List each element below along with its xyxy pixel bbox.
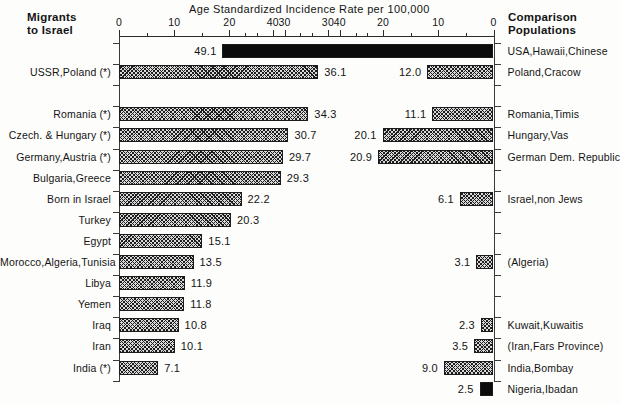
bar-right-9[interactable] — [444, 361, 494, 375]
left-panel-header: Migrants to Israel — [27, 11, 77, 36]
right-zero-axis-row-tick-12 — [494, 296, 501, 297]
right-axis-tick-label-20: 20 — [368, 16, 398, 28]
bar-left-10[interactable] — [119, 297, 184, 311]
bar-right-8[interactable] — [474, 339, 493, 353]
bar-left-2[interactable] — [119, 128, 288, 142]
bar-left-13[interactable] — [119, 361, 158, 375]
left-panel-header-line1: Migrants — [27, 11, 77, 24]
right-axis-tick-35 — [300, 33, 301, 36]
right-axis-tick-label-10: 10 — [423, 16, 453, 28]
right-axis-tick-25 — [356, 33, 357, 36]
row-label-left-7: Egypt — [0, 236, 111, 247]
row-label-right-1: Poland,Cracow — [508, 67, 581, 78]
row-label-left-9: Libya — [0, 278, 111, 289]
left-axis-tick-5 — [147, 33, 148, 36]
bar-value-left-4: 29.3 — [287, 173, 309, 184]
right-axis-tick-45 — [245, 33, 246, 36]
bar-left-9[interactable] — [119, 276, 185, 290]
bar-value-right-9: 9.0 — [398, 363, 438, 374]
bar-value-left-3: 29.7 — [289, 152, 311, 163]
bar-left-0[interactable] — [119, 65, 318, 79]
bar-value-left-11: 10.8 — [185, 320, 207, 331]
bar-value-left-10: 11.8 — [190, 299, 211, 310]
left-axis-tick-label-20: 20 — [214, 16, 244, 28]
right-axis-tick-label-0: 0 — [479, 16, 509, 28]
bar-left-6[interactable] — [119, 213, 231, 227]
bar-right-4[interactable] — [378, 150, 493, 164]
bar-right-0[interactable] — [222, 44, 493, 58]
bar-value-right-10: 2.5 — [434, 384, 474, 395]
right-zero-axis-row-tick-15 — [494, 360, 501, 361]
right-axis-tick-15 — [411, 33, 412, 36]
right-zero-axis-row-tick-5 — [494, 149, 501, 150]
bar-value-left-6: 20.3 — [237, 215, 259, 226]
row-label-left-5: Born in Israel — [0, 194, 111, 205]
bar-left-4[interactable] — [119, 171, 281, 185]
bar-value-left-13: 7.1 — [164, 363, 180, 374]
bar-value-left-7: 15.1 — [208, 236, 230, 247]
right-zero-axis-row-tick-13 — [494, 317, 501, 318]
right-axis-tick-20 — [383, 30, 384, 36]
bar-left-12[interactable] — [119, 339, 175, 353]
row-label-right-7: Kuwait,Kuwaitis — [508, 320, 584, 331]
bar-value-right-0: 49.1 — [176, 46, 216, 57]
bar-right-7[interactable] — [481, 318, 494, 332]
row-label-left-3: Germany,Austria (*) — [0, 152, 111, 163]
bar-left-5[interactable] — [119, 192, 242, 206]
row-label-left-4: Bulgaria,Greece — [0, 173, 111, 184]
left-zero-axis-row-tick-0 — [113, 43, 120, 44]
bar-left-7[interactable] — [119, 234, 202, 248]
bar-right-10[interactable] — [480, 382, 494, 396]
bar-value-right-6: 3.1 — [430, 257, 470, 268]
right-axis-tick-40 — [273, 30, 274, 36]
left-zero-axis-row-tick-2 — [113, 85, 120, 86]
right-zero-axis-row-tick-14 — [494, 338, 501, 339]
bar-value-right-8: 3.5 — [428, 341, 468, 352]
left-axis-tick-20 — [229, 30, 230, 36]
bar-right-5[interactable] — [460, 192, 494, 206]
bar-left-1[interactable] — [119, 107, 308, 121]
bar-value-right-1: 12.0 — [381, 67, 421, 78]
left-zero-axis-row-tick-16 — [113, 381, 120, 382]
left-axis-tick-label-0: 0 — [104, 16, 134, 28]
right-zero-axis-row-tick-10 — [494, 254, 501, 255]
bar-value-left-9: 11.9 — [191, 278, 212, 289]
row-label-right-9: India,Bombay — [508, 363, 574, 374]
left-axis-tick-35 — [312, 33, 313, 36]
right-panel-header-line1: Comparison — [508, 11, 577, 24]
bar-left-8[interactable] — [119, 255, 194, 269]
bar-right-2[interactable] — [432, 107, 493, 121]
bar-left-11[interactable] — [119, 318, 179, 332]
right-axis-tick-10 — [438, 30, 439, 36]
right-axis-line — [230, 36, 494, 37]
row-label-right-4: German Dem. Republic — [508, 152, 620, 163]
left-axis-tick-30 — [285, 30, 286, 36]
bar-value-left-1: 34.3 — [314, 109, 336, 120]
right-axis-tick-label-30: 30 — [313, 16, 343, 28]
bar-value-right-2: 11.1 — [386, 109, 426, 120]
left-axis-tick-25 — [257, 33, 258, 36]
row-label-right-0: USA,Hawaii,Chinese — [508, 46, 608, 57]
row-label-left-13: India (*) — [0, 363, 111, 374]
row-label-left-10: Yemen — [0, 299, 111, 310]
bar-value-left-0: 36.1 — [324, 67, 346, 78]
bar-left-3[interactable] — [119, 150, 283, 164]
right-zero-axis-row-tick-3 — [494, 106, 501, 107]
bar-value-right-4: 20.9 — [332, 152, 372, 163]
bar-right-1[interactable] — [427, 65, 493, 79]
row-label-right-3: Hungary,Vas — [508, 130, 569, 141]
bar-right-3[interactable] — [383, 128, 494, 142]
right-zero-axis-row-tick-4 — [494, 127, 501, 128]
right-zero-axis-row-tick-7 — [494, 191, 501, 192]
row-label-right-8: (Iran,Fars Province) — [508, 341, 604, 352]
row-label-left-2: Czech. & Hungary (*) — [0, 130, 111, 141]
right-zero-axis-row-tick-1 — [494, 64, 501, 65]
right-zero-axis-row-tick-6 — [494, 170, 501, 171]
bar-right-6[interactable] — [476, 255, 493, 269]
bar-value-right-3: 20.1 — [337, 130, 377, 141]
chart-title: Age Standardized Incidence Rate per 100,… — [189, 3, 430, 15]
right-zero-axis — [494, 36, 495, 382]
right-zero-axis-row-tick-16 — [494, 381, 501, 382]
right-axis-tick-5 — [466, 33, 467, 36]
